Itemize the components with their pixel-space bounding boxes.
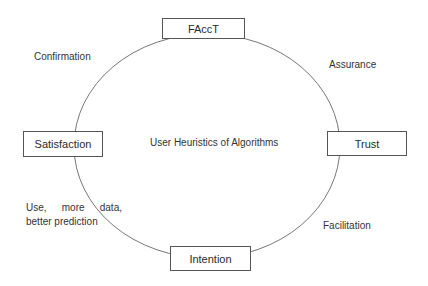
node-facct: FAccT — [162, 18, 245, 39]
node-trust: Trust — [327, 131, 407, 156]
edge-label-line2: better prediction — [26, 215, 122, 229]
center-label: User Heuristics of Algorithms — [150, 137, 278, 148]
node-intention: Intention — [170, 246, 251, 271]
node-facct-label: FAccT — [188, 23, 219, 35]
edge-label-use-more-data: Use, more data, better prediction — [26, 201, 122, 229]
edge-label-word: Use, — [26, 201, 47, 215]
edge-label-confirmation: Confirmation — [34, 51, 91, 62]
edge-label-facilitation: Facilitation — [323, 220, 371, 231]
edge-label-assurance: Assurance — [329, 59, 376, 70]
node-trust-label: Trust — [355, 138, 380, 150]
edge-label-word: more — [62, 201, 85, 215]
edge-label-word: data, — [100, 201, 122, 215]
node-intention-label: Intention — [189, 253, 231, 265]
node-satisfaction: Satisfaction — [23, 131, 103, 157]
node-satisfaction-label: Satisfaction — [35, 138, 92, 150]
